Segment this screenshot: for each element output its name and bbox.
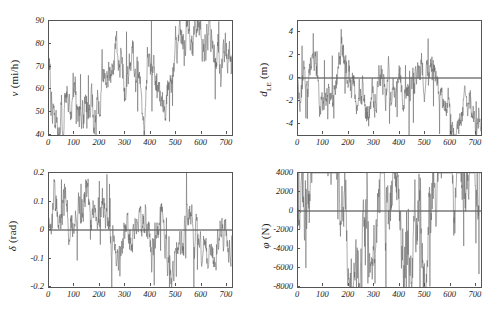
x-tick-label: 600 — [194, 289, 207, 299]
x-tickmark — [150, 131, 151, 134]
y-tick-label: -4 — [255, 118, 293, 128]
y-tickmark — [48, 201, 51, 202]
x-tickmark — [201, 131, 202, 134]
x-tick-label: 300 — [367, 137, 380, 147]
y-tick-label: -2000 — [255, 224, 293, 234]
x-tick-label: 400 — [143, 289, 156, 299]
x-tick-label: 400 — [392, 137, 405, 147]
y-tick-label: 0 — [6, 224, 44, 234]
x-tickmark — [450, 283, 451, 286]
y-tick-label: -8000 — [255, 281, 293, 291]
x-tick-label: 0 — [46, 137, 50, 147]
y-tick-label: 50 — [6, 106, 44, 116]
plot-area-velocity[interactable] — [48, 20, 233, 136]
x-tick-label: 700 — [220, 137, 233, 147]
x-tick-label: 100 — [67, 289, 80, 299]
y-tick-label: -0.2 — [6, 281, 44, 291]
y-tickmark — [297, 191, 300, 192]
subplot-steering: δ (rad) -0.2-0.100.10.201002003004005006… — [0, 158, 248, 314]
y-tick-label: 2000 — [255, 186, 293, 196]
y-tickmark — [297, 267, 300, 268]
x-tick-label: 500 — [418, 137, 431, 147]
y-tick-label: 4 — [255, 26, 293, 36]
y-tickmark — [297, 31, 300, 32]
y-tickmark — [297, 248, 300, 249]
plot-area-force[interactable] — [297, 172, 482, 288]
x-tickmark — [175, 283, 176, 286]
y-tickmark — [48, 229, 51, 230]
x-tickmark — [373, 283, 374, 286]
x-tick-label: 500 — [418, 289, 431, 299]
x-tick-label: 500 — [169, 289, 182, 299]
plot-area-lateral-offset[interactable] — [297, 20, 482, 136]
x-tick-label: 200 — [92, 289, 105, 299]
x-tickmark — [373, 131, 374, 134]
y-tickmark — [297, 172, 300, 173]
subplot-lateral-offset: dLE (m) -4-20240100200300400500600700 — [249, 0, 497, 158]
x-tickmark — [150, 283, 151, 286]
x-tickmark — [175, 131, 176, 134]
y-tickmark — [48, 111, 51, 112]
x-tick-label: 400 — [143, 137, 156, 147]
x-tickmark — [348, 283, 349, 286]
x-tick-label: 600 — [443, 137, 456, 147]
x-tick-label: 600 — [194, 137, 207, 147]
y-tickmark — [297, 123, 300, 124]
data-series-dLE — [298, 29, 481, 135]
y-tick-label: 2 — [255, 49, 293, 59]
x-tickmark — [475, 283, 476, 286]
x-tick-label: 200 — [92, 137, 105, 147]
x-tick-label: 300 — [118, 137, 131, 147]
x-tick-label: 0 — [46, 289, 50, 299]
y-tickmark — [297, 54, 300, 55]
subplot-velocity: v (mi/h) 4050607080900100200300400500600… — [0, 0, 248, 158]
y-tickmark — [48, 134, 51, 135]
subplot-force: φ (N) -8000-6000-4000-200002000400001002… — [249, 158, 497, 314]
x-tick-label: 600 — [443, 289, 456, 299]
x-tickmark — [201, 283, 202, 286]
y-tickmark — [48, 258, 51, 259]
x-tickmark — [99, 131, 100, 134]
x-tick-label: 0 — [295, 289, 299, 299]
data-series-v — [49, 21, 232, 135]
x-tickmark — [297, 131, 298, 134]
y-tick-label: 70 — [6, 61, 44, 71]
figure-canvas: v (mi/h) 4050607080900100200300400500600… — [0, 0, 497, 314]
y-tick-label: 80 — [6, 38, 44, 48]
y-tickmark — [297, 286, 300, 287]
x-tickmark — [424, 131, 425, 134]
x-tick-label: 200 — [341, 289, 354, 299]
y-tickmark — [48, 20, 51, 21]
x-tickmark — [322, 131, 323, 134]
x-tickmark — [48, 131, 49, 134]
y-tickmark — [48, 43, 51, 44]
y-tickmark — [297, 229, 300, 230]
y-tick-label: -0.1 — [6, 253, 44, 263]
x-tick-label: 700 — [220, 289, 233, 299]
y-tickmark — [48, 66, 51, 67]
x-tickmark — [73, 131, 74, 134]
y-tickmark — [297, 100, 300, 101]
x-tickmark — [124, 283, 125, 286]
y-tickmark — [297, 77, 300, 78]
y-axis-label-steering: δ (rad) — [6, 196, 18, 276]
y-tick-label: 90 — [6, 15, 44, 25]
x-tickmark — [48, 283, 49, 286]
x-tickmark — [226, 283, 227, 286]
y-tick-label: 0.2 — [6, 167, 44, 177]
y-tickmark — [48, 172, 51, 173]
x-tickmark — [297, 283, 298, 286]
y-tick-label: 40 — [6, 129, 44, 139]
x-tick-label: 400 — [392, 289, 405, 299]
y-tickmark — [48, 88, 51, 89]
x-tick-label: 100 — [316, 137, 329, 147]
x-tick-label: 0 — [295, 137, 299, 147]
y-tick-label: -4000 — [255, 243, 293, 253]
y-tick-label: 0 — [255, 205, 293, 215]
y-tickmark — [297, 210, 300, 211]
plot-area-steering[interactable] — [48, 172, 233, 288]
x-tickmark — [348, 131, 349, 134]
x-tickmark — [226, 131, 227, 134]
x-tickmark — [399, 131, 400, 134]
x-tickmark — [73, 283, 74, 286]
